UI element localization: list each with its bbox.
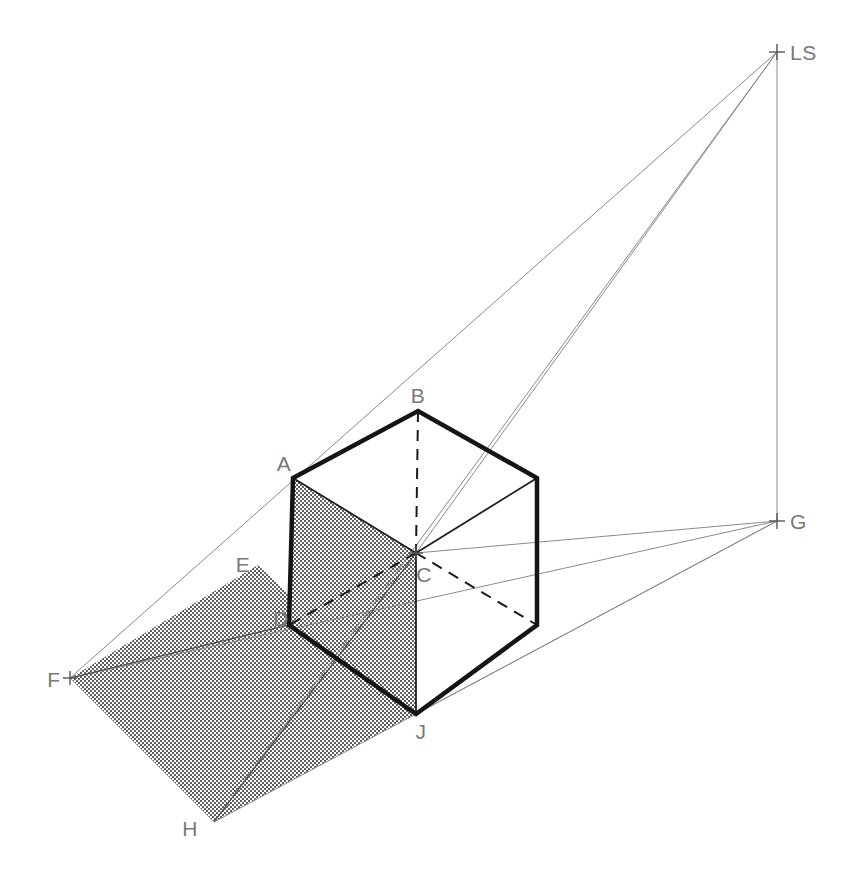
hidden-edge-b-c: [416, 411, 418, 553]
diagram-canvas: LS G B A E C D F J H: [0, 0, 856, 888]
cube-edge-c-top-right: [416, 478, 537, 553]
ray-g-to-c: [416, 521, 777, 553]
label-f: F: [47, 668, 60, 691]
marker-g: [769, 513, 785, 529]
label-ls: LS: [790, 41, 817, 64]
label-j: J: [416, 720, 427, 743]
label-a: A: [277, 452, 292, 475]
ray-ls-to-h: [214, 52, 777, 822]
shadow-construction-drawing: LS G B A E C D F J H: [0, 0, 856, 888]
label-g: G: [790, 510, 807, 533]
shadow-group: [70, 478, 416, 822]
hidden-edge-c-back-bottom: [416, 553, 537, 625]
label-e: E: [236, 553, 251, 576]
ray-ls-to-c: [416, 52, 777, 553]
label-d: D: [273, 607, 289, 630]
ray-g-to-f: [70, 521, 777, 678]
label-b: B: [411, 384, 426, 407]
label-h: H: [182, 817, 198, 840]
label-c: C: [416, 563, 432, 586]
